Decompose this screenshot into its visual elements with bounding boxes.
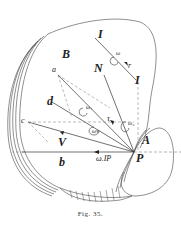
label-tau: τ: [107, 115, 110, 123]
label-omega-ip: ω.IP: [96, 155, 111, 163]
label-p: P: [136, 152, 143, 164]
label-omega: ω: [116, 50, 120, 56]
label-i-bottom: I: [135, 74, 140, 86]
label-n: N: [94, 62, 103, 74]
hatching-bottom: [70, 186, 120, 202]
label-i-top: I: [98, 28, 103, 40]
body-b-outline: [8, 19, 156, 201]
label-b: B: [62, 48, 70, 60]
label-r: r: [128, 62, 131, 70]
label-a-body: A: [142, 134, 150, 146]
label-d: d: [47, 95, 53, 107]
label-v: V: [58, 136, 66, 148]
figure: I B ω r N I a ω₁ d c τ ω₂ ωv V A ω.IP b …: [0, 0, 181, 227]
figure-caption: Fig. 35.: [0, 210, 181, 218]
arrowheads: [60, 62, 128, 154]
label-c: c: [21, 117, 25, 125]
diagram-drawing: [0, 0, 181, 227]
label-omega-2: ω₂: [128, 120, 134, 126]
label-a: a: [52, 66, 56, 74]
label-omega-1: ω₁: [86, 104, 92, 110]
label-b-point: b: [59, 156, 65, 168]
label-omega-v: ωv: [92, 128, 99, 134]
